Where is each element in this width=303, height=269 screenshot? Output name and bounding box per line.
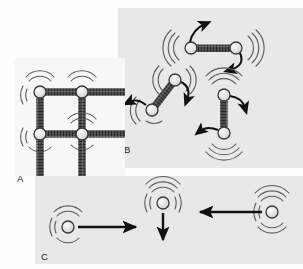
atom-circle-icon xyxy=(218,89,230,101)
panel-c: C xyxy=(35,176,303,264)
spring-bond-icon xyxy=(195,45,233,53)
spring-bond-icon xyxy=(86,88,125,95)
atom-circle-icon xyxy=(34,128,46,140)
spring-bond-icon xyxy=(36,96,43,130)
spring-bond-icon xyxy=(36,138,43,176)
atom-circle-icon xyxy=(218,127,230,139)
spring-bond-icon xyxy=(44,88,78,95)
spring-bond-icon xyxy=(78,138,85,176)
panel-b-background xyxy=(118,8,303,168)
spring-bond-icon xyxy=(86,130,125,137)
atom-circle-icon xyxy=(76,128,88,140)
atom-circle-icon xyxy=(169,74,181,86)
panel-c-background xyxy=(35,176,303,264)
atom-circle-icon xyxy=(34,86,46,98)
atom-circle-icon xyxy=(157,197,169,209)
figure-canvas: B xyxy=(0,0,303,269)
atom-circle-icon xyxy=(146,104,158,116)
atom-circle-icon xyxy=(62,221,74,233)
spring-bond-icon xyxy=(78,96,85,130)
atom-circle-icon xyxy=(266,206,278,218)
panel-label-c: C xyxy=(41,251,48,262)
panel-b: B xyxy=(118,8,303,168)
atom-circle-icon xyxy=(76,86,88,98)
spring-bond-icon xyxy=(44,130,78,137)
atom-circle-icon xyxy=(185,42,197,54)
spring-bond-icon xyxy=(220,101,228,127)
panel-a: A xyxy=(14,58,125,184)
atom-circle-icon xyxy=(230,42,242,54)
panel-label-a: A xyxy=(17,173,24,184)
figure-svg: B xyxy=(0,0,303,269)
